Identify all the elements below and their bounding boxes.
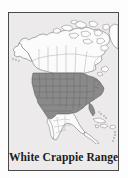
north-america-range-map [9, 13, 118, 144]
figure-root: White Crappie Range [0, 0, 128, 178]
map-svg [9, 13, 118, 144]
figure-caption: White Crappie Range [9, 144, 118, 170]
figure-panel: White Crappie Range [8, 12, 119, 171]
